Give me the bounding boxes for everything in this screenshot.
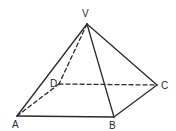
- vertex-label-b: B: [109, 120, 116, 131]
- visible-edges: [17, 24, 157, 117]
- vertex-label-d: D: [50, 78, 57, 89]
- edge-va: [17, 24, 87, 116]
- edge-vc: [87, 24, 157, 85]
- edge-ab: [17, 116, 114, 117]
- vertex-label-v: V: [82, 8, 89, 19]
- edge-dc: [59, 84, 157, 85]
- edge-vb: [87, 24, 114, 117]
- hidden-edges: [17, 24, 157, 116]
- edge-bc: [114, 85, 157, 117]
- pyramid-diagram: V A B C D: [0, 0, 176, 131]
- vertex-label-c: C: [161, 80, 168, 91]
- vertex-label-a: A: [12, 119, 19, 130]
- edge-vd: [59, 24, 87, 84]
